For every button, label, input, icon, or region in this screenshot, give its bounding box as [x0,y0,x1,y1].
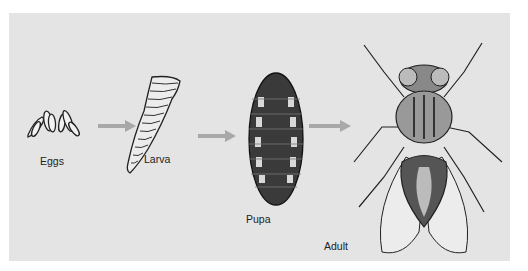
adult-label: Adult [324,240,348,252]
larva-label: Larva [144,153,170,165]
pupa-label: Pupa [246,213,271,225]
adult-fly-illustration [334,27,514,257]
eggs-illustration [24,103,84,143]
pupa-illustration [246,69,306,209]
arrow-right-icon [198,130,238,142]
figure-panel: Eggs Larva [9,13,510,261]
eggs-label: Eggs [40,155,64,167]
